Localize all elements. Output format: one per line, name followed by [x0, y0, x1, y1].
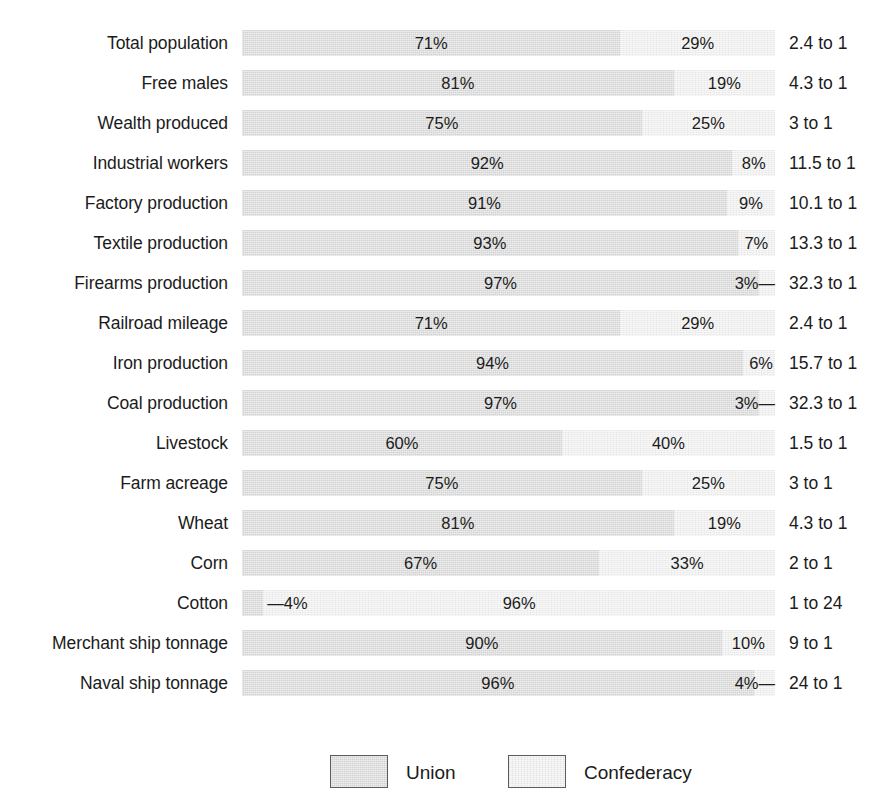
union-percent-label: 81%	[242, 510, 674, 536]
chart-row: Firearms production97%3%—32.3 to 1	[0, 263, 887, 303]
row-ratio-label: 1.5 to 1	[789, 423, 847, 463]
row-ratio-label: 3 to 1	[789, 463, 833, 503]
bar-track: 94%6%	[242, 350, 775, 376]
chart-row: Livestock60%40%1.5 to 1	[0, 423, 887, 463]
row-category-label: Livestock	[0, 423, 228, 463]
confederacy-percent-label: 29%	[620, 30, 775, 56]
chart-row: Naval ship tonnage96%4%—24 to 1	[0, 663, 887, 703]
row-category-label: Firearms production	[0, 263, 228, 303]
row-category-label: Factory production	[0, 183, 228, 223]
union-percent-label: 75%	[242, 470, 642, 496]
legend-label-confederacy: Confederacy	[584, 752, 692, 794]
chart-row: Wheat81%19%4.3 to 1	[0, 503, 887, 543]
bar-track: 67%33%	[242, 550, 775, 576]
row-ratio-label: 1 to 24	[789, 583, 843, 623]
confederacy-percent-label: 19%	[674, 510, 775, 536]
confederacy-percent-label: 96%	[263, 590, 775, 616]
confederacy-percent-label: 4%—	[735, 670, 775, 696]
row-ratio-label: 32.3 to 1	[789, 383, 857, 423]
row-category-label: Industrial workers	[0, 143, 228, 183]
row-category-label: Farm acreage	[0, 463, 228, 503]
confederacy-percent-label: 19%	[674, 70, 775, 96]
legend-label-union: Union	[406, 752, 456, 794]
row-category-label: Corn	[0, 543, 228, 583]
row-category-label: Coal production	[0, 383, 228, 423]
chart-row: Free males81%19%4.3 to 1	[0, 63, 887, 103]
row-ratio-label: 13.3 to 1	[789, 223, 857, 263]
chart-row: Corn67%33%2 to 1	[0, 543, 887, 583]
union-percent-label: 92%	[242, 150, 732, 176]
row-ratio-label: 32.3 to 1	[789, 263, 857, 303]
bar-track: 71%29%	[242, 310, 775, 336]
bar-track: 96%4%—	[242, 670, 775, 696]
chart-row: Cotton—4%96%1 to 24	[0, 583, 887, 623]
bar-track: 81%19%	[242, 510, 775, 536]
union-percent-label: 75%	[242, 110, 642, 136]
legend-swatch-confederacy-icon	[508, 755, 566, 788]
bar-track: 75%25%	[242, 110, 775, 136]
row-category-label: Wheat	[0, 503, 228, 543]
confederacy-percent-label: 40%	[562, 430, 775, 456]
bar-track: 81%19%	[242, 70, 775, 96]
union-percent-label: 81%	[242, 70, 674, 96]
bar-track: —4%96%	[242, 590, 775, 616]
row-ratio-label: 2.4 to 1	[789, 303, 847, 343]
confederacy-percent-label: 7%	[738, 230, 775, 256]
chart-row: Iron production94%6%15.7 to 1	[0, 343, 887, 383]
confederacy-percent-label: 6%	[749, 350, 773, 376]
confederacy-percent-label: 8%	[732, 150, 775, 176]
chart-row: Industrial workers92%8%11.5 to 1	[0, 143, 887, 183]
row-ratio-label: 24 to 1	[789, 663, 843, 703]
chart-row: Farm acreage75%25%3 to 1	[0, 463, 887, 503]
row-ratio-label: 4.3 to 1	[789, 63, 847, 103]
bar-track: 97%3%—	[242, 270, 775, 296]
union-percent-label: 91%	[242, 190, 727, 216]
chart-row: Wealth produced75%25%3 to 1	[0, 103, 887, 143]
bar-track: 60%40%	[242, 430, 775, 456]
union-percent-label: 93%	[242, 230, 738, 256]
union-percent-label: 94%	[242, 350, 743, 376]
union-percent-label: 67%	[242, 550, 599, 576]
row-ratio-label: 3 to 1	[789, 103, 833, 143]
row-category-label: Total population	[0, 23, 228, 63]
row-ratio-label: 11.5 to 1	[789, 143, 856, 183]
confederacy-percent-label: 25%	[642, 110, 775, 136]
stacked-bar-chart: Total population71%29%2.4 to 1Free males…	[0, 0, 887, 807]
row-ratio-label: 15.7 to 1	[789, 343, 857, 383]
union-percent-label: 60%	[242, 430, 562, 456]
union-percent-label: 97%	[242, 390, 759, 416]
legend-swatch-union-icon	[330, 755, 388, 788]
row-category-label: Free males	[0, 63, 228, 103]
confederacy-percent-label: 3%—	[735, 270, 775, 296]
bar-track: 93%7%	[242, 230, 775, 256]
row-category-label: Railroad mileage	[0, 303, 228, 343]
chart-row: Factory production91%9%10.1 to 1	[0, 183, 887, 223]
union-percent-label: 97%	[242, 270, 759, 296]
bar-track: 75%25%	[242, 470, 775, 496]
chart-row: Textile production93%7%13.3 to 1	[0, 223, 887, 263]
bar-track: 91%9%	[242, 190, 775, 216]
chart-row: Coal production97%3%—32.3 to 1	[0, 383, 887, 423]
row-category-label: Wealth produced	[0, 103, 228, 143]
row-ratio-label: 10.1 to 1	[789, 183, 857, 223]
union-percent-label: 71%	[242, 30, 620, 56]
bar-track: 97%3%—	[242, 390, 775, 416]
chart-legend: Union Confederacy	[0, 752, 887, 798]
chart-row: Merchant ship tonnage90%10%9 to 1	[0, 623, 887, 663]
confederacy-percent-label: 33%	[599, 550, 775, 576]
row-category-label: Textile production	[0, 223, 228, 263]
row-category-label: Iron production	[0, 343, 228, 383]
chart-row: Railroad mileage71%29%2.4 to 1	[0, 303, 887, 343]
confederacy-percent-label: 9%	[727, 190, 775, 216]
bar-track: 71%29%	[242, 30, 775, 56]
chart-row: Total population71%29%2.4 to 1	[0, 23, 887, 63]
union-percent-label: 96%	[242, 670, 754, 696]
row-ratio-label: 2 to 1	[789, 543, 833, 583]
row-category-label: Cotton	[0, 583, 228, 623]
union-percent-label: 71%	[242, 310, 620, 336]
confederacy-percent-label: 10%	[722, 630, 775, 656]
confederacy-percent-label: 29%	[620, 310, 775, 336]
union-percent-label: 90%	[242, 630, 722, 656]
bar-track: 92%8%	[242, 150, 775, 176]
bar-segment-union	[242, 590, 263, 616]
